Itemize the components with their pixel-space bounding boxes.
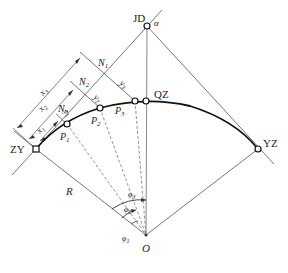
o-marker <box>145 234 148 237</box>
radius-dashed-p1 <box>67 124 146 235</box>
p3-marker <box>132 98 138 104</box>
diagram-canvas: JD α QZ ZY YZ O R P1 P2 P3 N1 N2 N3 y3 y… <box>0 0 288 273</box>
bisector-line <box>146 26 147 235</box>
label-r: R <box>65 185 73 197</box>
label-x3: x3 <box>36 85 50 98</box>
label-jd: JD <box>133 12 145 24</box>
label-yz: YZ <box>263 137 278 149</box>
label-y2: y2 <box>90 91 103 105</box>
label-p2: P2 <box>90 115 101 128</box>
label-x2: x2 <box>35 101 49 114</box>
angle-arrow-phi2 <box>131 209 136 213</box>
label-p1: P1 <box>59 131 70 144</box>
label-n2: N2 <box>78 76 90 89</box>
label-alpha: α <box>154 18 159 28</box>
yz-marker <box>255 146 261 152</box>
curve-diagram: JD α QZ ZY YZ O R P1 P2 P3 N1 N2 N3 y3 y… <box>0 0 288 273</box>
angle-arc-phi3 <box>112 200 146 209</box>
label-phi3: φ3 <box>128 190 135 200</box>
label-zy: ZY <box>10 143 25 155</box>
label-x1: x1 <box>33 123 47 136</box>
label-o: O <box>142 242 150 254</box>
label-y3: y3 <box>116 77 129 91</box>
p1-marker <box>64 121 70 127</box>
zy-marker <box>33 146 39 152</box>
offset-line-n1 <box>80 52 135 101</box>
radius-dashed-p2 <box>100 108 146 235</box>
p2-marker <box>97 105 103 111</box>
label-phi2: φ2 <box>124 205 131 215</box>
label-p3: P3 <box>114 105 125 118</box>
label-phi1: φ1 <box>122 234 129 244</box>
radius-line-yz <box>146 149 258 235</box>
qz-marker <box>143 98 149 104</box>
label-qz: QZ <box>154 88 169 100</box>
radius-dashed-p3 <box>135 101 146 235</box>
